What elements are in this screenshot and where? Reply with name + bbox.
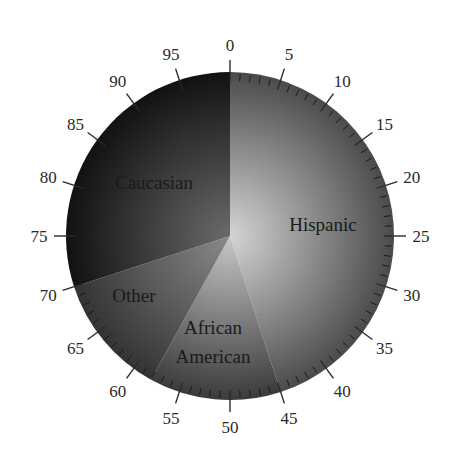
tick-label: 25 (413, 227, 430, 246)
tick-label: 20 (403, 168, 420, 187)
tick-label: 65 (67, 339, 84, 358)
tick-label: 95 (162, 45, 179, 64)
tick-label: 30 (403, 286, 420, 305)
tick-label: 40 (334, 382, 351, 401)
tick-label: 0 (226, 36, 235, 55)
tick-label: 70 (40, 286, 57, 305)
tick-label: 10 (334, 72, 351, 91)
slice-label: American (176, 346, 251, 367)
tick-label: 75 (31, 227, 48, 246)
tick-label: 85 (67, 115, 84, 134)
slice-label: African (184, 317, 243, 338)
tick-label: 5 (285, 45, 294, 64)
tick-label: 45 (281, 409, 298, 428)
tick-label: 90 (109, 72, 126, 91)
slice-label: Caucasian (115, 172, 194, 193)
tick-label: 60 (109, 382, 126, 401)
tick-label: 80 (40, 168, 57, 187)
slice-label: Other (112, 285, 156, 306)
tick-label: 15 (376, 115, 393, 134)
pie-chart: 05101520253035404550556065707580859095 H… (0, 0, 449, 457)
tick-label: 35 (376, 339, 393, 358)
tick-label: 50 (222, 418, 239, 437)
slice-label: Hispanic (289, 214, 357, 235)
tick-label: 55 (162, 409, 179, 428)
